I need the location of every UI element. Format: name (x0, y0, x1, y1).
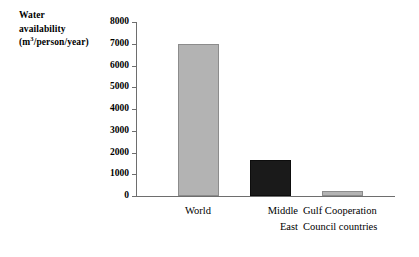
y-tick-mark (132, 153, 136, 154)
x-axis-label-middle-east-line-1: Middle (226, 203, 298, 219)
y-tick-label: 1000 (110, 170, 129, 180)
y-tick-mark (132, 22, 136, 23)
x-axis-label-world: World (160, 203, 236, 219)
y-tick-label: 0 (124, 191, 129, 201)
y-axis-unit-rest: /person/year) (34, 37, 89, 47)
y-tick-mark (132, 174, 136, 175)
y-axis-title-line-3: (m3/person/year) (19, 36, 111, 50)
y-axis-title: Water availability (m3/person/year) (19, 9, 111, 50)
y-tick-label: 5000 (110, 83, 129, 93)
y-axis-line (136, 22, 137, 197)
plot-area: 010002000300040005000600070008000 (136, 22, 395, 197)
y-tick-mark (132, 87, 136, 88)
x-axis-label-middle-east-line-2: East (226, 219, 298, 235)
y-tick-mark (132, 196, 136, 197)
y-tick-mark (132, 66, 136, 67)
x-axis-label-gcc-line-2: Council countries (303, 219, 415, 235)
bar-world (178, 44, 219, 196)
y-axis-unit-base: (m (19, 37, 30, 47)
bar-gulf-cooperation-council-countries (322, 191, 363, 196)
x-axis-label-world-line-1: World (160, 203, 236, 219)
y-tick-label: 4000 (110, 104, 129, 114)
x-axis-label-middle-east: Middle East (226, 203, 298, 235)
x-axis-label-gcc-line-1: Gulf Cooperation (303, 203, 415, 219)
bar-middle-east (250, 160, 291, 196)
x-axis-line (136, 196, 395, 197)
y-tick-mark (132, 109, 136, 110)
y-tick-label: 8000 (110, 17, 129, 27)
y-tick-label: 2000 (110, 148, 129, 158)
y-tick-label: 3000 (110, 126, 129, 136)
y-tick-mark (132, 44, 136, 45)
bar-chart: Water availability (m3/person/year) 0100… (0, 0, 419, 257)
y-tick-label: 6000 (110, 61, 129, 71)
y-axis-title-line-1: Water (19, 9, 111, 23)
y-tick-mark (132, 131, 136, 132)
y-tick-label: 7000 (110, 39, 129, 49)
x-axis-label-gcc: Gulf Cooperation Council countries (303, 203, 415, 235)
